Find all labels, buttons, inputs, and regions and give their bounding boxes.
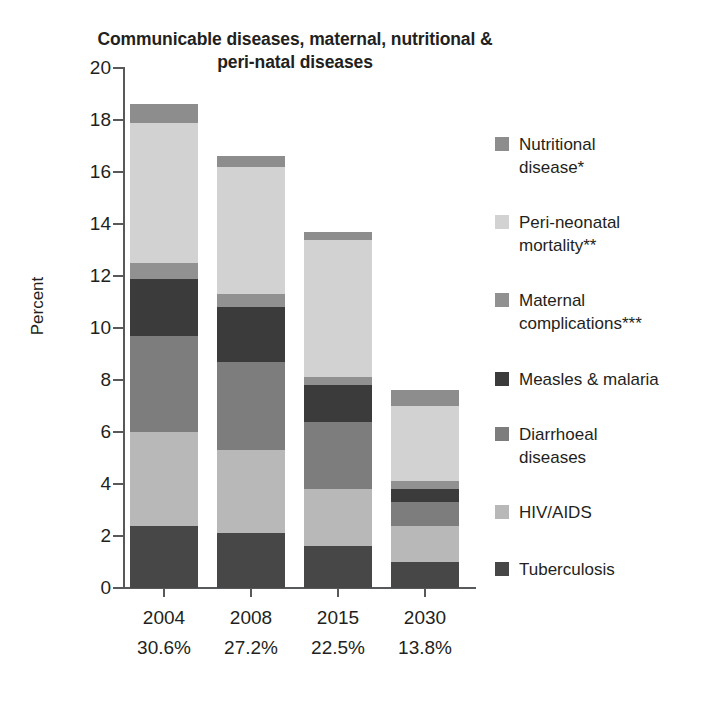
- bar-segment: [304, 546, 372, 588]
- bar-segment: [130, 279, 198, 336]
- bar-segment: [217, 167, 285, 294]
- category-year-label: 2030: [370, 607, 480, 629]
- y-axis-tick: [113, 431, 123, 433]
- bar-segment: [217, 156, 285, 166]
- y-axis-tick-label: 8: [65, 369, 111, 391]
- legend-swatch-icon: [495, 293, 509, 307]
- y-axis-tick: [113, 327, 123, 329]
- bar-segment: [217, 307, 285, 362]
- bar-segment: [130, 104, 198, 122]
- y-axis-tick: [113, 483, 123, 485]
- bar-segment: [391, 481, 459, 489]
- legend-item[interactable]: Diarrhoeal diseases: [495, 423, 597, 470]
- y-axis-tick-label: 18: [65, 109, 111, 131]
- y-axis-tick: [113, 379, 123, 381]
- plot-area: [124, 68, 476, 588]
- legend-label: Measles & malaria: [519, 368, 659, 391]
- legend-label: Nutritional disease*: [519, 133, 596, 180]
- bar-segment: [391, 526, 459, 562]
- category-percent-label: 13.8%: [370, 637, 480, 659]
- legend-label: Tuberculosis: [519, 558, 615, 581]
- bar-segment: [130, 432, 198, 526]
- bar-segment: [304, 232, 372, 240]
- legend-swatch-icon: [495, 215, 509, 229]
- bar-segment: [217, 450, 285, 533]
- legend-item[interactable]: Measles & malaria: [495, 368, 659, 391]
- legend-item[interactable]: Maternal complications***: [495, 289, 642, 336]
- bar-segment: [304, 377, 372, 385]
- legend-swatch-icon: [495, 137, 509, 151]
- bar-segment: [130, 336, 198, 432]
- legend-swatch-icon: [495, 562, 509, 576]
- x-axis-tick: [163, 589, 165, 597]
- legend-item[interactable]: HIV/AIDS: [495, 501, 592, 524]
- y-axis-tick: [113, 67, 123, 69]
- bar-segment: [391, 489, 459, 502]
- stacked-bar-chart: Communicable diseases, maternal, nutriti…: [0, 0, 716, 705]
- legend-swatch-icon: [495, 372, 509, 386]
- bar-segment: [304, 385, 372, 421]
- bar-segment: [304, 240, 372, 378]
- legend-item[interactable]: Tuberculosis: [495, 558, 615, 581]
- bar-segment: [130, 263, 198, 279]
- y-axis-tick: [113, 171, 123, 173]
- y-axis-tick-label: 2: [65, 525, 111, 547]
- bar-segment: [391, 390, 459, 406]
- y-axis-tick: [113, 275, 123, 277]
- bar-segment: [130, 123, 198, 263]
- y-axis-tick-labels: 02468101214161820: [55, 0, 111, 705]
- y-axis-tick: [113, 535, 123, 537]
- y-axis-title-wrap: Percent: [0, 0, 60, 705]
- y-axis-title: Percent: [28, 236, 48, 376]
- bar-2030: [391, 68, 459, 588]
- x-axis-tick: [250, 589, 252, 597]
- bar-2004: [130, 68, 198, 588]
- y-axis-tick-label: 10: [65, 317, 111, 339]
- y-axis-tick-label: 0: [65, 577, 111, 599]
- y-axis-tick-label: 14: [65, 213, 111, 235]
- y-axis-tick: [113, 119, 123, 121]
- bar-2008: [217, 68, 285, 588]
- legend-label: HIV/AIDS: [519, 501, 592, 524]
- y-axis-tick: [113, 587, 123, 589]
- legend-item[interactable]: Nutritional disease*: [495, 133, 596, 180]
- x-axis-category-2030: 203013.8%: [370, 607, 480, 659]
- y-axis-tick: [113, 223, 123, 225]
- legend-swatch-icon: [495, 505, 509, 519]
- bar-segment: [217, 294, 285, 307]
- y-axis-tick-label: 6: [65, 421, 111, 443]
- legend-label: Diarrhoeal diseases: [519, 423, 597, 470]
- y-axis-tick-label: 16: [65, 161, 111, 183]
- bar-segment: [391, 502, 459, 525]
- bar-segment: [391, 562, 459, 588]
- y-axis-tick-label: 12: [65, 265, 111, 287]
- bar-segment: [304, 422, 372, 490]
- y-axis-tick-label: 20: [65, 57, 111, 79]
- bar-2015: [304, 68, 372, 588]
- bar-segment: [217, 533, 285, 588]
- x-axis-tick: [424, 589, 426, 597]
- x-axis-tick: [337, 589, 339, 597]
- legend-label: Peri-neonatal mortality**: [519, 211, 620, 258]
- chart-title-line-1: Communicable diseases, maternal, nutriti…: [95, 28, 495, 51]
- legend-item[interactable]: Peri-neonatal mortality**: [495, 211, 620, 258]
- bar-segment: [217, 362, 285, 450]
- legend-label: Maternal complications***: [519, 289, 642, 336]
- y-axis-tick-label: 4: [65, 473, 111, 495]
- bar-segment: [391, 406, 459, 481]
- legend-swatch-icon: [495, 427, 509, 441]
- bar-segment: [304, 489, 372, 546]
- bar-segment: [130, 526, 198, 588]
